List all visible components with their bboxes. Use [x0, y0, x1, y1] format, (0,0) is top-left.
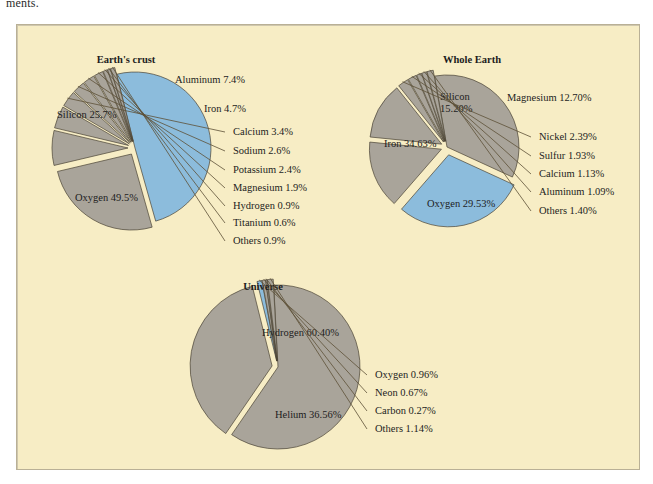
- slice-label-magnesium: Magnesium 1.9%: [233, 182, 307, 193]
- truncated-body-text: ments.: [6, 0, 39, 11]
- slice-label-silicon: Silicon15.20%: [440, 91, 473, 114]
- slice-label-oxygen: Oxygen 49.5%: [75, 192, 138, 203]
- slice-label-neon: Neon 0.67%: [375, 387, 428, 398]
- charts-layer: Oxygen 49.5%Silicon 25.7%Aluminum 7.4%Ir…: [52, 68, 519, 449]
- slice-label-calcium: Calcium 3.4%: [233, 126, 293, 137]
- slice-label-iron: Iron 34.63%: [384, 138, 437, 149]
- slice-label-carbon: Carbon 0.27%: [375, 405, 436, 416]
- slice-label-nickel: Nickel 2.39%: [539, 131, 597, 142]
- slice-label-iron: Iron 4.7%: [204, 103, 246, 114]
- slice-label-sulfur: Sulfur 1.93%: [539, 150, 595, 161]
- slice-label-silicon: Silicon 25.7%: [57, 109, 117, 120]
- slice-label-others: Others 0.9%: [233, 235, 286, 246]
- slice-label-oxygen: Oxygen 29.53%: [427, 198, 495, 209]
- slice-label-helium: Helium 36.56%: [275, 409, 342, 420]
- slice-label-magnesium: Magnesium 12.70%: [507, 92, 592, 103]
- slice-label-others: Others 1.14%: [375, 423, 433, 434]
- slice-label-potassium: Potassium 2.4%: [233, 164, 301, 175]
- pie-chart-earth-s-crust: Oxygen 49.5%Silicon 25.7%Aluminum 7.4%Ir…: [52, 68, 211, 231]
- slice-label-calcium: Calcium 1.13%: [539, 168, 605, 179]
- slice-label-oxygen: Oxygen 0.96%: [375, 369, 438, 380]
- chart-title-earths-crust: Earth's crust: [97, 54, 156, 65]
- slice-label-titanium: Titanium 0.6%: [233, 217, 296, 228]
- figure-panel: Oxygen 49.5%Silicon 25.7%Aluminum 7.4%Ir…: [16, 24, 640, 470]
- slice-label-hydrogen: Hydrogen 60.40%: [262, 327, 339, 338]
- chart-title-universe: Universe: [243, 281, 283, 292]
- slice-label-others: Others 1.40%: [539, 205, 597, 216]
- pie-chart-universe: Hydrogen 60.40%Helium 36.56%Oxygen 0.96%…: [190, 279, 360, 449]
- slice-label-sodium: Sodium 2.6%: [233, 145, 290, 156]
- slice-label-aluminum: Aluminum 7.4%: [175, 74, 245, 85]
- pie-charts-figure: Oxygen 49.5%Silicon 25.7%Aluminum 7.4%Ir…: [17, 25, 639, 469]
- slice-label-aluminum: Aluminum 1.09%: [539, 186, 615, 197]
- chart-title-whole-earth: Whole Earth: [443, 54, 501, 65]
- slice-label-hydrogen: Hydrogen 0.9%: [233, 200, 300, 211]
